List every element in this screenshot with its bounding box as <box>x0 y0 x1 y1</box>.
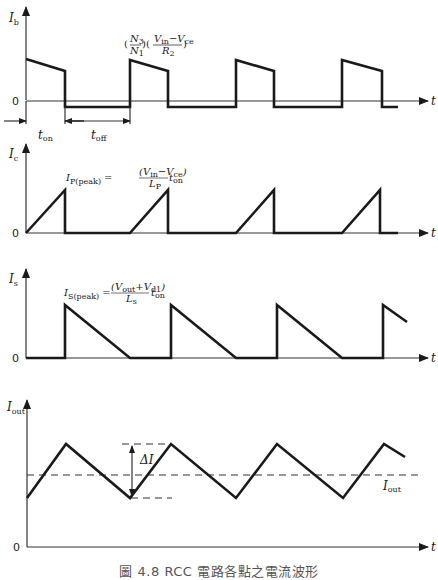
t-axis-label: t <box>431 94 436 108</box>
panel-ic: Ic 0 t IP(peak)= (Vin−Vce) LP ton <box>8 144 436 240</box>
svg-text:Vin−Vce: Vin−Vce <box>154 33 194 46</box>
panel-is: Is 0 t IS(peak)= (Vout+Vd1) Ls ton <box>8 269 436 365</box>
is-peak-formula: IS(peak)= (Vout+Vd1) Ls ton <box>63 281 165 306</box>
svg-text:LP: LP <box>148 178 162 191</box>
y-axis-label: Iout <box>6 400 26 416</box>
panel-iout: Iout 0 t ΔI Iout <box>6 400 436 554</box>
svg-text:IP(peak)=: IP(peak)= <box>65 172 112 186</box>
ripple-label: ΔI <box>139 453 154 467</box>
svg-text:R2: R2 <box>161 45 175 58</box>
t-axis-label: t <box>431 540 436 554</box>
zero-label: 0 <box>12 352 19 365</box>
ib-peak-formula: ( N3 N1 )( Vin−Vce R2 ) <box>124 33 194 58</box>
is-waveform <box>26 305 407 358</box>
svg-text:(: ( <box>124 38 128 49</box>
zero-label: 0 <box>12 227 19 240</box>
y-axis-label: Is <box>8 272 18 288</box>
mean-current-label: Iout <box>382 479 402 494</box>
panel-ib: Ib 0 t ( N3 N1 )( Vin−Vce R2 ) ton toff <box>4 7 436 143</box>
t-off-label: toff <box>91 128 108 143</box>
zero-label: 0 <box>13 541 20 554</box>
zero-label: 0 <box>12 95 19 108</box>
iout-waveform <box>27 444 405 498</box>
ic-waveform <box>26 190 398 233</box>
svg-text:)(: )( <box>142 38 150 49</box>
y-axis-label: Ib <box>8 11 19 27</box>
t-axis-label: t <box>431 351 436 365</box>
t-axis-label: t <box>431 226 436 240</box>
svg-text:IS(peak)=: IS(peak)= <box>63 287 111 301</box>
ib-waveform <box>26 59 398 107</box>
y-axis-label: Ic <box>8 147 19 163</box>
figure-caption: 圖 4.8 RCC 電路各點之電流波形 <box>0 561 438 580</box>
ic-peak-formula: IP(peak)= (Vin−Vce) LP ton <box>65 166 187 191</box>
t-on-label: ton <box>38 128 53 143</box>
svg-text:): ) <box>183 38 187 49</box>
svg-text:Ls: Ls <box>125 293 137 306</box>
